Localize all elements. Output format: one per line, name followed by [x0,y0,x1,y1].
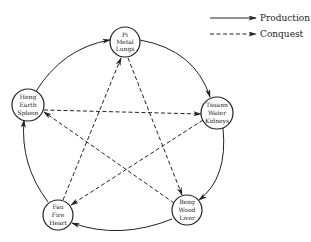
svg-text:Tsuann: Tsuann [206,101,228,108]
legend-production-label: Production [260,13,310,23]
production-arrow-heng-pi [35,40,110,93]
svg-text:Fau: Fau [52,203,63,210]
production-arrow-fau-heng [24,120,49,202]
svg-text:Wood: Wood [179,206,196,213]
svg-text:Pi: Pi [122,31,128,38]
production-arrow-pi-tsuann [140,40,210,97]
production-arrow-tsuann-beng [199,128,224,200]
conquest-arrow-fau-pi [63,58,121,200]
node-tsuann: Tsuann Water Kidneys [201,97,233,129]
conquest-arrows [44,58,203,205]
svg-text:Heart: Heart [49,219,67,226]
svg-text:Beng: Beng [179,198,195,206]
production-arrow-beng-fau [72,219,172,231]
svg-text:Kidneys: Kidneys [205,117,229,125]
svg-text:Heng: Heng [20,93,37,101]
svg-text:Water: Water [208,109,226,116]
conquest-arrow-pi-beng [128,58,182,195]
node-heng: Heng Earth Spleen [12,89,44,121]
svg-text:Liver: Liver [179,214,195,221]
svg-text:Lungs: Lungs [116,45,135,53]
node-pi: Pi Metal Lungs [110,27,140,57]
legend: Production Conquest [210,13,310,39]
node-fau: Fau Fire Heart [43,200,73,230]
svg-text:Earth: Earth [19,101,36,108]
svg-text:Metal: Metal [116,38,134,45]
node-beng: Beng Wood Liver [172,195,202,225]
five-elements-diagram: Pi Metal Lungs Tsuann Water Kidneys Beng… [0,0,311,242]
conquest-arrow-heng-tsuann [44,110,201,114]
legend-conquest-label: Conquest [260,29,304,39]
svg-text:Spleen: Spleen [18,109,39,117]
svg-text:Fire: Fire [52,211,65,218]
